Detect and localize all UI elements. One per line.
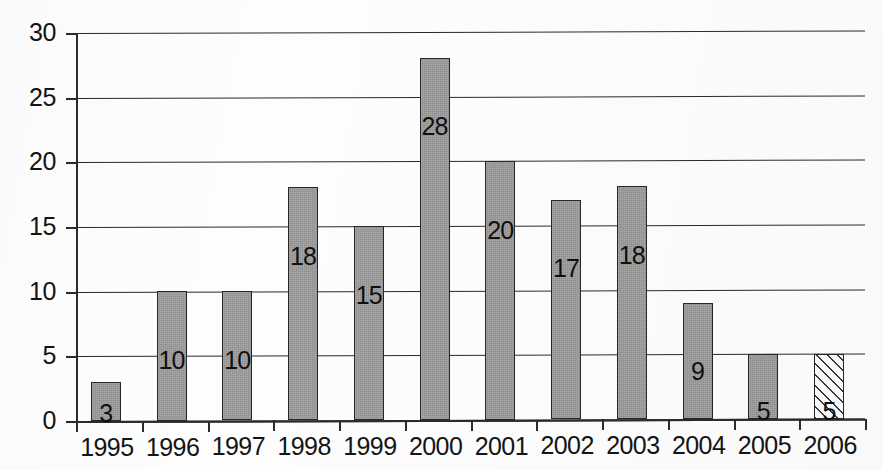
gridline [76, 160, 865, 163]
y-axis-tick-label: 5 [0, 343, 56, 368]
bar[interactable] [91, 382, 121, 421]
bar[interactable] [748, 354, 778, 419]
x-axis-tick [536, 420, 538, 431]
y-axis-tick [66, 356, 77, 358]
bar[interactable] [420, 58, 450, 420]
y-axis-tick-label: 20 [0, 149, 56, 174]
x-axis-tick [208, 421, 210, 432]
y-axis-tick-label: 30 [0, 20, 56, 45]
bar[interactable] [814, 354, 844, 419]
x-axis-tick-label: 2006 [785, 430, 875, 460]
x-axis-tick [602, 419, 604, 430]
bar[interactable] [617, 186, 647, 419]
x-axis-tick [273, 420, 275, 431]
bar[interactable] [485, 161, 515, 420]
plot-area: 051015202530 31010181528201718955 199519… [0, 0, 883, 470]
y-axis-tick-label: 10 [0, 279, 56, 304]
bar[interactable] [551, 200, 581, 420]
x-axis-tick [668, 419, 670, 430]
gridline [76, 31, 865, 34]
bar[interactable] [354, 226, 384, 420]
y-axis-tick [66, 98, 77, 100]
x-axis-tick [405, 420, 407, 431]
y-axis-tick [66, 227, 77, 229]
x-axis-tick [142, 421, 144, 432]
bar-chart: 051015202530 31010181528201718955 199519… [0, 0, 883, 470]
bar[interactable] [288, 187, 318, 420]
x-axis-tick [339, 420, 341, 431]
gridline [76, 225, 865, 228]
y-axis-tick-label: 15 [0, 214, 56, 239]
bar[interactable] [222, 291, 252, 420]
x-axis-tick [799, 419, 801, 430]
x-axis-tick [865, 419, 867, 430]
x-axis-tick [471, 420, 473, 431]
y-axis-tick-label: 25 [0, 85, 56, 110]
x-axis-tick [76, 421, 78, 432]
gridline [76, 289, 865, 292]
y-axis-tick [66, 292, 77, 294]
y-axis-tick [66, 162, 77, 164]
y-axis-tick [66, 33, 77, 35]
y-axis-tick-label: 0 [0, 408, 56, 433]
gridline [76, 354, 865, 357]
x-axis-tick [734, 419, 736, 430]
bar[interactable] [683, 303, 713, 419]
gridline [76, 95, 865, 98]
bar[interactable] [157, 291, 187, 420]
